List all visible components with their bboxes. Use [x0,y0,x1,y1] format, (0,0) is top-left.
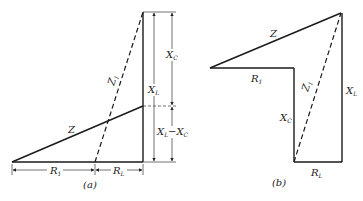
panel-b: Z R1 Z1 XL XC RL (b) [210,13,357,188]
z-label: Z [269,28,278,39]
panel-a: Z Z1 R1 RL XL XC XL−XC (a) [12,12,191,190]
z-line [210,13,341,68]
xc-label: XC [279,112,292,124]
caption-a: (a) [83,179,97,190]
caption-b: (b) [272,177,286,188]
r1-label: R1 [250,73,262,85]
z1-dashed-line [95,12,143,162]
rl-label: RL [310,167,323,179]
z1-label: Z1 [299,79,314,94]
z1-label: Z1 [105,73,120,88]
xl-label: XL [345,85,357,97]
impedance-diagrams: Z Z1 R1 RL XL XC XL−XC (a) Z R1 Z1 XL XC… [0,0,363,201]
z-label: Z [67,124,76,135]
z-line [12,106,143,162]
